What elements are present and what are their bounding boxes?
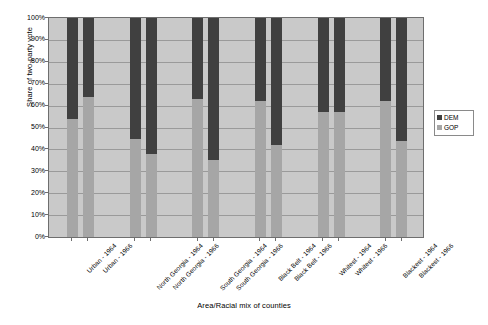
y-axis-tick-label: 20% <box>11 189 45 196</box>
bar-segment-gop <box>380 101 391 237</box>
gridline <box>49 193 423 194</box>
bar-segment-dem <box>146 18 157 154</box>
gridline <box>49 171 423 172</box>
legend-label: DEM <box>444 114 458 121</box>
gridline <box>49 215 423 216</box>
x-axis-tick-mark <box>401 238 402 241</box>
chart-screenshot: Share of two-party vote 100%90%80%70%60%… <box>0 0 488 325</box>
y-axis-tick-label: 100% <box>11 14 45 21</box>
y-axis-tick-label: 90% <box>11 35 45 42</box>
gridline <box>49 106 423 107</box>
x-axis-tick-mark <box>213 238 214 241</box>
gridline <box>49 62 423 63</box>
x-axis-tick-mark <box>87 238 88 241</box>
bar-segment-dem <box>318 18 329 112</box>
bar-segment-dem <box>271 18 282 145</box>
x-axis-tick-mark <box>71 238 72 241</box>
bar-segment-dem <box>255 18 266 101</box>
bar-segment-gop <box>146 154 157 237</box>
x-axis-title: Area/Racial mix of counties <box>0 301 488 310</box>
y-axis-tick-label: 70% <box>11 79 45 86</box>
x-axis-tick-mark <box>275 238 276 241</box>
x-axis-tick-mark <box>259 238 260 241</box>
x-axis-tick-mark <box>338 238 339 241</box>
gridline <box>49 128 423 129</box>
bar-segment-dem <box>83 18 94 97</box>
legend-swatch-icon <box>437 115 442 120</box>
bar-segment-dem <box>334 18 345 112</box>
bar-segment-gop <box>130 139 141 238</box>
bar-segment-dem <box>380 18 391 101</box>
y-axis-tick-label: 40% <box>11 145 45 152</box>
x-axis-tick-mark <box>197 238 198 241</box>
x-axis-tick-mark <box>150 238 151 241</box>
bar-segment-gop <box>334 112 345 237</box>
bar-segment-gop <box>318 112 329 237</box>
legend-swatch-icon <box>437 125 442 130</box>
x-axis-tick-mark <box>322 238 323 241</box>
bar-segment-gop <box>67 119 78 237</box>
legend-label: GOP <box>444 124 458 131</box>
bar-segment-dem <box>67 18 78 119</box>
bar-segment-dem <box>208 18 219 160</box>
y-axis-tick-label: 10% <box>11 211 45 218</box>
bar-segment-gop <box>271 145 282 237</box>
bar-segment-gop <box>255 101 266 237</box>
bar-segment-gop <box>396 141 407 237</box>
y-axis-tick-label: 50% <box>11 123 45 130</box>
y-axis-tick-label: 30% <box>11 167 45 174</box>
y-axis-tick-label: 0% <box>11 233 45 240</box>
y-axis-tick-label: 60% <box>11 101 45 108</box>
x-axis-tick-mark <box>134 238 135 241</box>
bar-segment-dem <box>192 18 203 99</box>
chart-legend: DEMGOP <box>434 110 474 136</box>
bar-segment-gop <box>192 99 203 237</box>
gridline <box>49 40 423 41</box>
legend-item[interactable]: GOP <box>437 123 471 132</box>
bar-segment-dem <box>396 18 407 141</box>
gridline <box>49 149 423 150</box>
bar-segment-dem <box>130 18 141 139</box>
plot-area <box>48 17 424 238</box>
legend-item[interactable]: DEM <box>437 113 471 122</box>
gridline <box>49 84 423 85</box>
x-axis-tick-mark <box>385 238 386 241</box>
y-axis-tick-label: 80% <box>11 57 45 64</box>
bar-segment-gop <box>208 160 219 237</box>
bar-segment-gop <box>83 97 94 237</box>
